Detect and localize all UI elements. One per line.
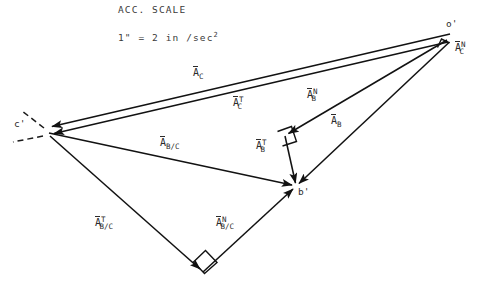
vector-a-bc-t-sub: B/C	[100, 222, 114, 231]
right-angle-marks	[194, 39, 450, 274]
stroke-oc-outer	[52, 34, 450, 127]
stroke-cn	[50, 136, 200, 269]
vector-a-c-sub: C	[199, 72, 204, 81]
vector-label-a-b: AB	[331, 116, 342, 129]
vector-a-bc-t-base: A	[95, 217, 101, 228]
vector-a-bc-base: A	[160, 137, 166, 148]
vector-a-bc-n-base: A	[216, 217, 222, 228]
vector-a-c-n-base: A	[455, 42, 461, 53]
diagram-canvas	[0, 0, 480, 302]
vector-label-a-bc: AB/C	[160, 138, 180, 151]
vector-label-a-bc-n: ANB/C	[216, 216, 234, 231]
point-label-o-prime: o'	[446, 18, 457, 29]
vector-a-c-base: A	[193, 67, 199, 78]
vector-a-bc-n-sub: B/C	[221, 222, 235, 231]
vector-label-a-b-n: ANB	[307, 88, 316, 103]
vector-label-a-c-t: ATC	[233, 96, 242, 111]
vector-a-b-n-base: A	[307, 89, 313, 100]
vector-label-a-bc-t: ATB/C	[95, 216, 113, 231]
vector-a-b-base: A	[331, 115, 337, 126]
scale-value: 1" = 2 in /sec2	[118, 31, 219, 43]
vector-label-a-c-n: ANC	[455, 41, 464, 56]
vector-a-c-t-base: A	[233, 97, 239, 108]
vector-a-b-sub: B	[337, 120, 342, 129]
vector-strokes	[49, 34, 450, 272]
stroke-oc-inner	[54, 42, 448, 134]
vector-label-a-b-t: ATB	[256, 139, 265, 154]
scale-title: ACC. SCALE	[118, 4, 186, 15]
scale-value-text: 1" = 2 in /sec	[118, 32, 213, 43]
scale-exponent: 2	[213, 31, 218, 39]
point-label-c-prime: c'	[14, 118, 25, 129]
vector-label-a-c: AC	[193, 68, 204, 81]
acceleration-polygon-diagram: ACC. SCALE 1" = 2 in /sec2 o' c' b' AC A…	[0, 0, 480, 302]
vector-a-bc-sub: B/C	[166, 142, 180, 151]
vector-a-b-t-base: A	[256, 140, 262, 151]
point-label-b-prime: b'	[298, 186, 309, 197]
dash-lower	[13, 136, 43, 142]
